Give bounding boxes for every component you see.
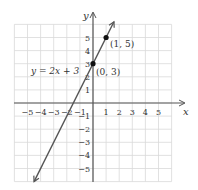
x-tick-label: 5 bbox=[156, 108, 161, 117]
y-tick-label: −2 bbox=[78, 125, 90, 134]
y-tick-label: 5 bbox=[85, 34, 90, 43]
y-tick-label: 1 bbox=[85, 86, 90, 95]
y-axis-label: y bbox=[82, 10, 89, 21]
x-tick-label: 1 bbox=[104, 108, 109, 117]
y-tick-label: −4 bbox=[78, 151, 90, 160]
x-axis-label: x bbox=[183, 106, 189, 117]
y-tick-label: 4 bbox=[85, 47, 90, 56]
point-label-a: (0, 3) bbox=[96, 67, 120, 77]
data-point bbox=[104, 35, 109, 40]
x-tick-label: 3 bbox=[130, 108, 135, 117]
point-label-b: (1, 5) bbox=[110, 39, 134, 49]
x-tick-label: −5 bbox=[22, 108, 34, 117]
data-point bbox=[90, 61, 95, 66]
equation-label: y = 2x + 3 bbox=[30, 66, 79, 76]
x-tick-label: −4 bbox=[35, 108, 47, 117]
y-tick-label: −1 bbox=[78, 112, 90, 121]
x-tick-label: 4 bbox=[143, 108, 148, 117]
line-series bbox=[34, 22, 114, 182]
y-tick-label: −5 bbox=[78, 165, 90, 174]
coordinate-plane: x y −5−4−3−2−11234554321−1−2−3−4−5 y = 2… bbox=[0, 0, 198, 190]
x-tick-label: −3 bbox=[48, 108, 60, 117]
line-y-2x-plus-3 bbox=[34, 22, 114, 182]
y-tick-label: −3 bbox=[78, 138, 90, 147]
y-tick-label: 3 bbox=[85, 60, 90, 69]
x-tick-label: 2 bbox=[117, 108, 122, 117]
